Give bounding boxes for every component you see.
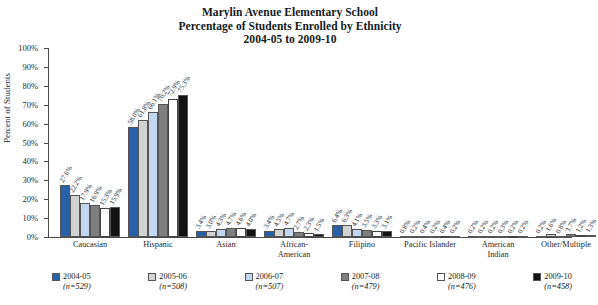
bar[interactable]	[80, 203, 90, 237]
bar-column[interactable]: 0.4%	[420, 48, 430, 237]
bar-column[interactable]: 1.7%	[566, 48, 576, 237]
legend-item[interactable]: 2007-08(n=479)	[341, 272, 380, 292]
bar[interactable]	[246, 229, 256, 237]
bar-column[interactable]: 4.7%	[284, 48, 294, 237]
bar-column[interactable]: 27.6%	[60, 48, 70, 237]
bar-column[interactable]: 1.5%	[314, 48, 324, 237]
bar-column[interactable]: 0.3%	[498, 48, 508, 237]
bar-column[interactable]: 17.9%	[80, 48, 90, 237]
bar[interactable]	[430, 236, 440, 238]
bar[interactable]	[284, 228, 294, 237]
bar[interactable]	[264, 231, 274, 237]
bar[interactable]	[342, 225, 352, 237]
bar-column[interactable]: 0.8%	[400, 48, 410, 237]
bar-column[interactable]: 1.6%	[546, 48, 556, 237]
bar[interactable]	[138, 120, 148, 237]
legend-item[interactable]: 2006-07(n=507)	[245, 272, 284, 292]
bar[interactable]	[518, 236, 528, 238]
bar-column[interactable]: 4.0%	[246, 48, 256, 237]
bar-column[interactable]: 0.2%	[488, 48, 498, 237]
bar-column[interactable]: 6.4%	[332, 48, 342, 237]
bar[interactable]	[148, 112, 158, 237]
bar[interactable]	[100, 208, 110, 237]
bar-column[interactable]: 16.9%	[90, 48, 100, 237]
bar[interactable]	[128, 127, 138, 237]
bar[interactable]	[536, 236, 546, 238]
bar[interactable]	[314, 234, 324, 237]
legend-item[interactable]: 2004-05(n=529)	[52, 272, 91, 292]
bar-column[interactable]: 3.4%	[264, 48, 274, 237]
bar-column[interactable]: 4.6%	[236, 48, 246, 237]
bar-column[interactable]: 66.1%	[148, 48, 158, 237]
legend-item[interactable]: 2009-10(n=458)	[533, 272, 572, 292]
bar[interactable]	[440, 236, 450, 238]
bar[interactable]	[294, 232, 304, 237]
bar-column[interactable]: 4.3%	[216, 48, 226, 237]
bar-column[interactable]: 4.7%	[226, 48, 236, 237]
bar[interactable]	[332, 225, 342, 237]
bar-column[interactable]: 3.3%	[372, 48, 382, 237]
bar-column[interactable]: 15.3%	[100, 48, 110, 237]
bar[interactable]	[60, 185, 70, 237]
bar-column[interactable]: 22.2%	[70, 48, 80, 237]
bar[interactable]	[382, 231, 392, 237]
bar[interactable]	[362, 230, 372, 237]
bar-column[interactable]: 0.2%	[450, 48, 460, 237]
bar[interactable]	[90, 205, 100, 237]
bar[interactable]	[400, 236, 410, 238]
bar-column[interactable]: 70.2%	[158, 48, 168, 237]
bar-column[interactable]: 1.3%	[586, 48, 596, 237]
bar-column[interactable]: 4.1%	[352, 48, 362, 237]
bar-column[interactable]: 72.9%	[168, 48, 178, 237]
bar-column[interactable]: 1.2%	[576, 48, 586, 237]
bar[interactable]	[158, 104, 168, 237]
bar-column[interactable]: 0.2%	[478, 48, 488, 237]
bar[interactable]	[304, 233, 314, 237]
bar-column[interactable]: 15.9%	[110, 48, 120, 237]
bar[interactable]	[420, 236, 430, 238]
bar[interactable]	[70, 195, 80, 237]
bar[interactable]	[546, 234, 556, 237]
bar-column[interactable]: 4.5%	[274, 48, 284, 237]
bar-column[interactable]: 0.2%	[508, 48, 518, 237]
bar[interactable]	[226, 228, 236, 237]
bar-column[interactable]: 2.7%	[294, 48, 304, 237]
bar[interactable]	[508, 236, 518, 238]
bar-column[interactable]: 0.2%	[518, 48, 528, 237]
bar[interactable]	[450, 236, 460, 238]
bar[interactable]	[206, 231, 216, 237]
bar[interactable]	[216, 229, 226, 237]
bar[interactable]	[556, 236, 566, 238]
bar-column[interactable]: 0.2%	[410, 48, 420, 237]
legend-item[interactable]: 2008-09(n=476)	[437, 272, 476, 292]
bar[interactable]	[566, 234, 576, 237]
bar-column[interactable]: 3.4%	[196, 48, 206, 237]
bar-column[interactable]: 0.4%	[440, 48, 450, 237]
bar[interactable]	[352, 229, 362, 237]
bar[interactable]	[236, 228, 246, 237]
bar[interactable]	[576, 235, 586, 237]
bar-column[interactable]: 3.0%	[206, 48, 216, 237]
bar-column[interactable]: 6.3%	[342, 48, 352, 237]
bar-column[interactable]: 0.2%	[468, 48, 478, 237]
bar-column[interactable]: 61.8%	[138, 48, 148, 237]
bar[interactable]	[498, 236, 508, 238]
bar-column[interactable]: 0.8%	[556, 48, 566, 237]
bar[interactable]	[488, 236, 498, 238]
bar[interactable]	[196, 231, 206, 237]
bar-column[interactable]: 58.0%	[128, 48, 138, 237]
bar[interactable]	[478, 236, 488, 238]
bar-column[interactable]: 3.1%	[382, 48, 392, 237]
bar[interactable]	[586, 235, 596, 237]
bar-column[interactable]: 2.3%	[304, 48, 314, 237]
bar[interactable]	[110, 207, 120, 237]
bar-column[interactable]: 3.5%	[362, 48, 372, 237]
bar-column[interactable]: 0.2%	[536, 48, 546, 237]
bar[interactable]	[178, 95, 188, 237]
bar[interactable]	[274, 229, 284, 238]
legend-item[interactable]: 2005-06(n=508)	[148, 272, 187, 292]
bar-column[interactable]: 75.3%	[178, 48, 188, 237]
bar[interactable]	[372, 231, 382, 237]
bar[interactable]	[168, 99, 178, 237]
bar[interactable]	[410, 236, 420, 238]
